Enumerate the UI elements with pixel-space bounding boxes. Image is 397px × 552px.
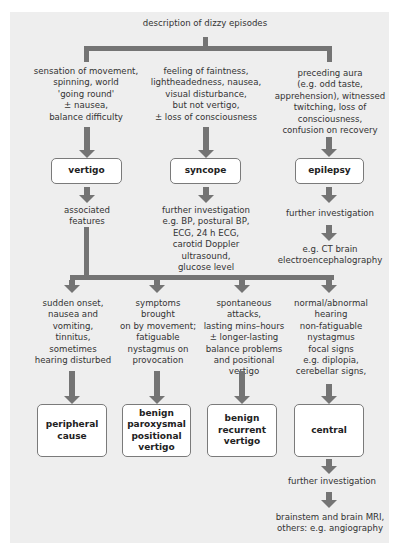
arrow-down-icon <box>234 371 250 404</box>
arrow-down-icon <box>321 187 337 203</box>
arrow-down-icon <box>149 280 165 293</box>
central-next2: brainstem and brain MRI, others: e.g. an… <box>268 512 392 535</box>
syncope-box: syncope <box>170 158 241 184</box>
vertigo-next: associated features <box>40 205 134 228</box>
arrow-down-icon <box>321 225 337 241</box>
brv-features: spontaneous attacks, lasting mins–hours … <box>198 298 290 378</box>
peripheral-cause-box: peripheral cause <box>37 404 107 457</box>
epilepsy-description: preceding aura (e.g. odd taste, apprehen… <box>268 68 392 136</box>
central-next: further investigation <box>278 476 386 487</box>
syncope-description: feeling of faintness, lightheadedness, n… <box>140 66 272 123</box>
arrow-down-icon <box>79 187 95 203</box>
bppv-features: symptoms brought on by movement; fatigua… <box>116 298 200 366</box>
vertigo-connector-bar <box>70 275 334 280</box>
epilepsy-box: epilepsy <box>295 158 364 184</box>
arrow-down-icon <box>64 371 80 404</box>
root-connector-right-drop <box>327 46 332 62</box>
epilepsy-next: further investigation <box>270 208 390 219</box>
vertigo-description: sensation of movement, spinning, world '… <box>20 66 152 123</box>
arrow-down-icon <box>321 459 337 474</box>
benign-recurrent-vertigo-box: benign recurrent vertigo <box>207 404 277 457</box>
arrow-down-icon <box>321 280 337 293</box>
arrow-down-icon <box>321 492 337 508</box>
arrow-down-icon <box>234 280 250 293</box>
bppv-box: benign paroxysmal positional vertigo <box>122 404 191 457</box>
central-box: central <box>294 404 364 457</box>
arrow-down-icon <box>198 187 214 203</box>
arrow-down-icon <box>149 371 165 404</box>
central-features: normal/abnormal hearing non-fatiguable n… <box>288 298 374 378</box>
arrow-down-icon <box>79 127 95 158</box>
vertigo-connector-stem <box>84 227 89 280</box>
syncope-next: further investigation e.g. BP, postural … <box>140 205 272 273</box>
arrow-down-icon <box>321 137 337 157</box>
root-connector-bar <box>84 46 332 51</box>
arrow-down-icon <box>198 127 214 158</box>
arrow-down-icon <box>321 384 337 404</box>
epilepsy-next2: e.g. CT brain electroencephalography <box>268 244 392 267</box>
root-title: description of dizzy episodes <box>100 18 310 29</box>
vertigo-box: vertigo <box>51 158 122 184</box>
root-connector-left-drop <box>84 46 89 62</box>
peripheral-features: sudden onset, nausea and vomiting, tinni… <box>30 298 116 366</box>
arrow-down-icon <box>64 280 80 293</box>
